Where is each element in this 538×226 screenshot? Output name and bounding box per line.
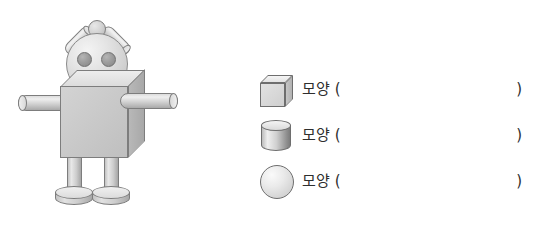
foot-left-cylinder [55, 186, 93, 206]
eye-left-sphere [77, 52, 92, 67]
cube-icon [258, 69, 298, 109]
answer-label-cube: 모양 ( [302, 82, 341, 97]
sphere-icon [258, 161, 298, 201]
answer-close-paren-cube: ) [516, 80, 522, 98]
cylinder-icon [258, 115, 298, 155]
answer-row-cylinder: 모양 ( ) [258, 112, 538, 158]
answer-label-sphere: 모양 ( [302, 174, 341, 189]
arm-right-cylinder [120, 93, 178, 109]
foot-right-top [92, 186, 130, 199]
body-cube-side-face [128, 69, 145, 158]
cylinder-icon-top [261, 120, 291, 131]
foot-right-cylinder [92, 186, 130, 206]
answer-row-cube: 모양 ( ) [258, 66, 538, 112]
cube-icon-front-face [260, 83, 285, 107]
eye-right-sphere [101, 52, 116, 67]
body-cube-front-face [60, 86, 128, 158]
answer-row-sphere: 모양 ( ) [258, 158, 538, 204]
answer-label-cylinder: 모양 ( [302, 128, 341, 143]
foot-left-top [55, 186, 93, 199]
robot-figure [0, 0, 250, 226]
answer-list: 모양 ( ) 모양 ( ) 모양 ( ) [258, 66, 538, 204]
sphere-icon-ball [260, 165, 294, 199]
answer-close-paren-sphere: ) [516, 172, 522, 190]
answer-close-paren-cylinder: ) [516, 126, 522, 144]
